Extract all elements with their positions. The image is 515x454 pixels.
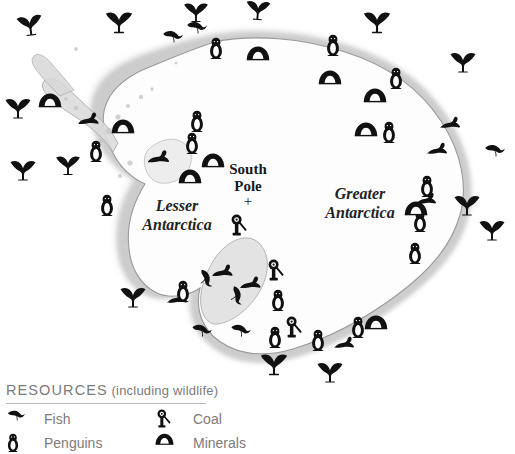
penguin-icon[interactable]: [407, 242, 423, 264]
seal-icon[interactable]: [440, 116, 461, 128]
whale-icon[interactable]: [477, 219, 507, 241]
whale-icon[interactable]: [54, 155, 83, 176]
greater-antarctica-label: Greater Antarctica: [325, 184, 394, 222]
whale-icon[interactable]: [448, 51, 478, 73]
minerals-icon: [155, 433, 177, 453]
minerals-icon[interactable]: [354, 122, 378, 137]
legend-penguins-label: Penguins: [44, 435, 102, 451]
fish-icon[interactable]: [161, 29, 183, 43]
fish-icon[interactable]: [483, 143, 505, 157]
penguin-icon[interactable]: [175, 280, 191, 302]
legend-minerals-label: Minerals: [193, 435, 246, 451]
whale-icon[interactable]: [258, 352, 290, 375]
lesser-antarctica-line1: Lesser: [156, 197, 199, 214]
seal-icon[interactable]: [427, 142, 448, 154]
legend-fish-label: Fish: [44, 411, 70, 427]
whale-icon[interactable]: [8, 159, 38, 181]
penguin-icon[interactable]: [270, 289, 286, 311]
legend-title: RESOURCES (including wildlife): [6, 381, 218, 399]
lesser-antarctica-label: Lesser Antarctica: [142, 196, 211, 234]
penguin-icon[interactable]: [419, 175, 435, 197]
whale-icon[interactable]: [361, 10, 393, 33]
penguin-icon: [6, 433, 28, 453]
fish-icon: [6, 409, 28, 429]
legend-title-main: RESOURCES: [6, 382, 108, 398]
penguin-icon[interactable]: [325, 34, 341, 56]
seal-icon[interactable]: [77, 112, 99, 125]
penguin-icon[interactable]: [388, 67, 404, 89]
penguin-icon[interactable]: [88, 140, 104, 162]
penguin-icon[interactable]: [267, 326, 283, 348]
whale-icon[interactable]: [243, 0, 273, 21]
whale-icon[interactable]: [452, 194, 482, 216]
coal-icon[interactable]: [266, 259, 284, 281]
legend-divider: [6, 403, 206, 404]
minerals-icon[interactable]: [38, 93, 62, 108]
antarctica-resources-map: Lesser Antarctica Greater Antarctica Sou…: [0, 0, 515, 454]
legend-panel: RESOURCES (including wildlife) FishPengu…: [0, 381, 515, 454]
legend-coal-label: Coal: [193, 411, 222, 427]
greater-antarctica-line1: Greater: [335, 185, 386, 202]
south-pole-label: South Pole: [229, 161, 267, 195]
fish-icon[interactable]: [189, 322, 212, 338]
penguin-icon[interactable]: [184, 132, 200, 154]
south-pole-line1: South: [229, 161, 267, 177]
minerals-icon[interactable]: [363, 88, 387, 103]
legend-title-sub: (including wildlife): [108, 383, 218, 398]
minerals-icon[interactable]: [318, 70, 342, 85]
penguin-icon[interactable]: [381, 121, 397, 143]
penguin-icon[interactable]: [189, 110, 205, 132]
fish-icon[interactable]: [228, 322, 251, 338]
whale-icon[interactable]: [103, 10, 135, 33]
minerals-icon[interactable]: [364, 315, 388, 330]
coal-icon[interactable]: [229, 214, 247, 236]
map-area[interactable]: Lesser Antarctica Greater Antarctica Sou…: [0, 0, 515, 380]
penguin-icon[interactable]: [310, 329, 326, 351]
coal-icon[interactable]: [284, 316, 302, 338]
minerals-icon[interactable]: [246, 46, 270, 61]
minerals-icon[interactable]: [201, 153, 225, 168]
minerals-icon[interactable]: [178, 169, 202, 184]
penguin-icon[interactable]: [208, 37, 224, 59]
fish-icon[interactable]: [185, 20, 207, 34]
whale-icon[interactable]: [3, 97, 33, 119]
whale-icon[interactable]: [315, 361, 345, 383]
lesser-antarctica-line2: Antarctica: [142, 216, 211, 233]
penguin-icon[interactable]: [99, 194, 115, 216]
minerals-icon[interactable]: [404, 201, 428, 216]
seal-icon[interactable]: [146, 149, 169, 163]
south-pole-marker-icon: +: [244, 193, 252, 210]
whale-icon[interactable]: [118, 286, 148, 308]
whale-icon[interactable]: [14, 12, 47, 38]
minerals-icon[interactable]: [111, 119, 135, 134]
seal-icon[interactable]: [211, 264, 233, 277]
coal-icon: [155, 409, 177, 429]
greater-antarctica-line2: Antarctica: [325, 204, 394, 221]
seal-icon[interactable]: [239, 276, 261, 289]
